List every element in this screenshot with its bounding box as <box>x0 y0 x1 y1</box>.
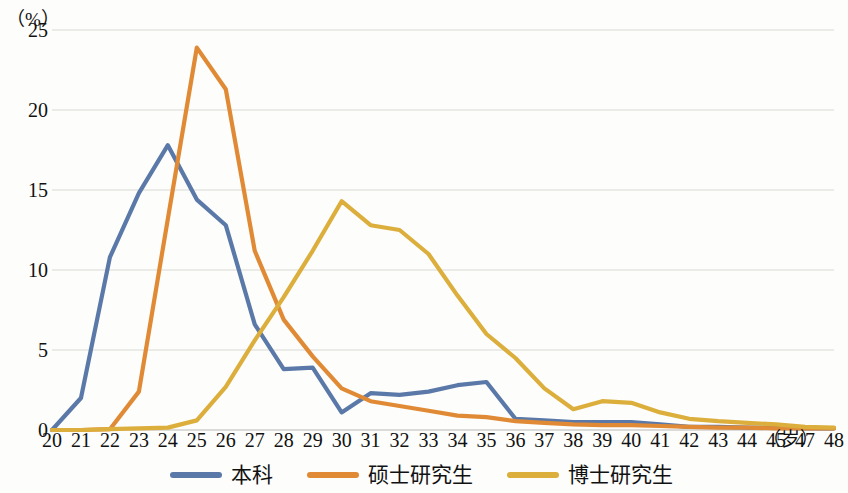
legend-item-1[interactable]: 硕士研究生 <box>307 463 473 487</box>
legend: 本科硕士研究生博士研究生 <box>0 458 842 492</box>
x-tick-label: 27 <box>241 427 269 453</box>
x-tick-label: 23 <box>125 427 153 453</box>
legend-swatch-icon <box>170 472 222 478</box>
legend-label: 硕士研究生 <box>368 463 473 487</box>
x-tick-label: 31 <box>357 427 385 453</box>
x-tick-label: 33 <box>415 427 443 453</box>
x-tick-label: 44 <box>733 427 761 453</box>
x-tick-label: 42 <box>675 427 703 453</box>
x-axis: （岁） 202122232425262728293031323334353637… <box>0 427 842 453</box>
x-tick-label: 29 <box>299 427 327 453</box>
x-tick-label: 37 <box>530 427 558 453</box>
x-tick-label: 21 <box>67 427 95 453</box>
legend-item-2[interactable]: 博士研究生 <box>507 463 673 487</box>
x-tick-label: 47 <box>791 427 819 453</box>
x-tick-label: 41 <box>646 427 674 453</box>
x-tick-label: 32 <box>386 427 414 453</box>
plot-area <box>52 30 834 430</box>
x-tick-label: 34 <box>443 427 471 453</box>
x-tick-label: 38 <box>559 427 587 453</box>
x-tick-label: 40 <box>617 427 645 453</box>
legend-swatch-icon <box>507 472 559 478</box>
x-tick-label: 30 <box>328 427 356 453</box>
legend-item-0[interactable]: 本科 <box>170 463 273 487</box>
x-tick-label: 39 <box>588 427 616 453</box>
y-tick-label: 25 <box>4 20 48 40</box>
plot-svg <box>52 30 834 430</box>
legend-label: 博士研究生 <box>568 463 673 487</box>
y-tick-label: 10 <box>4 260 48 280</box>
x-tick-label: 24 <box>154 427 182 453</box>
legend-swatch-icon <box>307 472 359 478</box>
x-tick-label: 43 <box>704 427 732 453</box>
y-tick-label: 15 <box>4 180 48 200</box>
x-tick-label: 48 <box>820 427 848 453</box>
series-line-1 <box>52 48 834 430</box>
x-tick-label: 20 <box>38 427 66 453</box>
x-tick-label: 36 <box>501 427 529 453</box>
x-tick-label: 28 <box>270 427 298 453</box>
y-tick-label: 5 <box>4 340 48 360</box>
x-tick-label: 25 <box>183 427 211 453</box>
series-line-2 <box>52 201 834 430</box>
y-axis: 0510152025 <box>0 0 48 493</box>
legend-label: 本科 <box>231 463 273 487</box>
x-tick-label: 26 <box>212 427 240 453</box>
x-tick-label: 35 <box>472 427 500 453</box>
y-tick-label: 20 <box>4 100 48 120</box>
series-line-0 <box>52 145 834 430</box>
x-tick-label: 22 <box>96 427 124 453</box>
x-tick-label: 45 <box>762 427 790 453</box>
